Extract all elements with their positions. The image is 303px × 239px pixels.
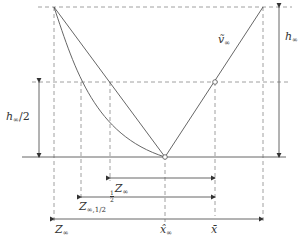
- point-x-hat: [163, 155, 168, 160]
- label-z-inf: Z∞: [55, 224, 69, 237]
- label-v-inf: ṽ∞: [218, 34, 230, 47]
- label-z-inf-half: Z∞,1/2: [79, 201, 106, 214]
- label-h-inf-half: h∞/2: [6, 111, 30, 124]
- diagram-canvas: [0, 0, 303, 239]
- point-x-bar: [213, 80, 218, 85]
- label-h-inf: h∞: [285, 31, 298, 44]
- label-x-bar: x̄: [211, 224, 217, 235]
- label-half-z-inf: 12Z∞: [110, 183, 128, 203]
- label-x-hat-inf: x̂∞: [160, 224, 172, 237]
